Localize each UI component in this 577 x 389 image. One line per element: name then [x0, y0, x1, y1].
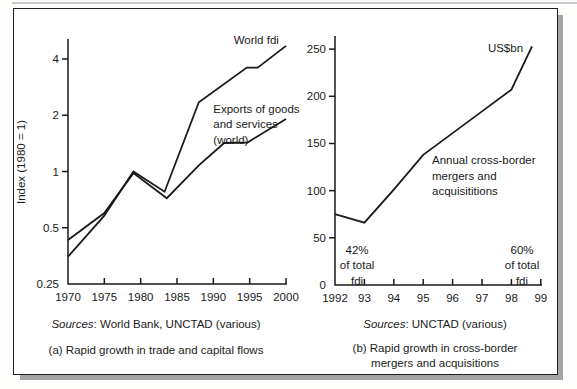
- panel-caption-b-line2: mergers and acquisitions: [353, 356, 518, 371]
- annotation-label: Annual cross-bordermergers andacquisitit…: [432, 154, 536, 197]
- sources-text-right: : UNCTAD (various): [405, 318, 506, 330]
- x-tick-label: 2000: [273, 291, 299, 303]
- x-tick-label: 96: [446, 292, 459, 304]
- series-line: [68, 46, 286, 257]
- scan-edge-line: [12, 2, 577, 4]
- y-tick-label: 0.5: [43, 222, 59, 234]
- axes: [68, 39, 287, 284]
- chart-panel-b: 199293949596979899050100150200250US$bnAn…: [307, 36, 547, 304]
- y-tick-label: 2: [53, 109, 59, 121]
- sources-word-right: Sources: [363, 318, 405, 330]
- x-tick-label: 1995: [237, 291, 263, 303]
- figure-frame: Index (1980 = 1) 19701975198019851990199…: [13, 8, 558, 375]
- annotation-label: 60%of totalfdi: [505, 244, 540, 287]
- figure-page: { "colors": { "line": "#1a1a1a", "shadow…: [0, 0, 577, 389]
- x-tick-label: 1992: [322, 292, 348, 304]
- panel-caption-a: (a) Rapid growth in trade and capital fl…: [49, 343, 264, 358]
- y-tick-label: 0: [320, 279, 326, 291]
- x-tick-label: 1985: [164, 291, 190, 303]
- series-line: [68, 119, 286, 240]
- annotation-label: Exports of goodsand services(world): [213, 103, 300, 146]
- x-tick-label: 95: [417, 292, 430, 304]
- sources-note-right: Sources: UNCTAD (various): [363, 317, 507, 332]
- y-tick-label: 50: [313, 232, 326, 244]
- y-tick-label: 200: [307, 90, 326, 102]
- panel-caption-b-line1: (b) Rapid growth in cross-border: [353, 341, 518, 356]
- annotation-label: US$bn: [488, 42, 523, 54]
- sources-word-left: Sources: [51, 318, 93, 330]
- y-tick-label: 100: [307, 185, 326, 197]
- annotation-label: 42%of totalfdi: [340, 244, 375, 287]
- x-tick-label: 97: [476, 292, 489, 304]
- x-tick-label: 1970: [55, 291, 81, 303]
- x-tick-label: 1990: [201, 291, 227, 303]
- x-tick-label: 1975: [92, 291, 118, 303]
- sources-note-left: Sources: World Bank, UNCTAD (various): [51, 317, 260, 332]
- y-tick-label: 250: [307, 43, 326, 55]
- y-tick-label: 0.25: [37, 278, 59, 290]
- sources-text-left: : World Bank, UNCTAD (various): [94, 318, 261, 330]
- annotation-label: World fdi: [234, 34, 279, 46]
- panel-caption-a-line1: (a) Rapid growth in trade and capital fl…: [49, 343, 264, 358]
- y-tick-label: 1: [53, 166, 59, 178]
- x-tick-label: 94: [387, 292, 400, 304]
- panel-caption-b: (b) Rapid growth in cross-border mergers…: [353, 341, 518, 371]
- y-tick-label: 150: [307, 137, 326, 149]
- y-tick-label: 4: [53, 53, 60, 65]
- x-tick-label: 98: [505, 292, 518, 304]
- x-tick-label: 99: [534, 292, 547, 304]
- x-tick-label: 93: [358, 292, 371, 304]
- chart-panel-a: 19701975198019851990199520004210.50.25Wo…: [37, 34, 300, 303]
- x-tick-label: 1980: [128, 291, 154, 303]
